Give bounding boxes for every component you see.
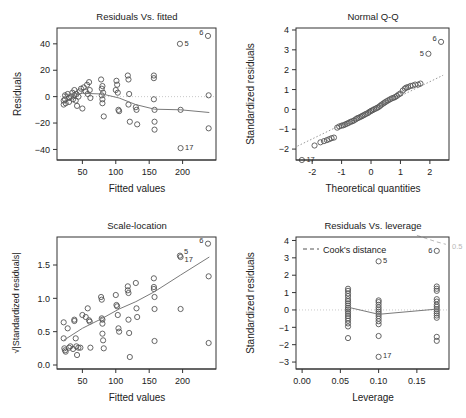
data-point [100,101,105,106]
data-point [74,352,79,357]
data-point [135,314,140,319]
outlier-label-17: 17 [185,255,193,264]
y-tick-label: 2 [284,270,289,280]
data-point [101,346,106,351]
data-point [134,306,139,311]
y-tick-label: 0.5 [37,327,50,337]
data-point [152,338,157,343]
outlier-label-6: 6 [428,246,432,255]
x-tick-label: 200 [175,167,190,177]
data-point [100,331,105,336]
panel-2-title: Normal Q-Q [347,11,398,22]
data-point [126,317,131,322]
outlier-label-17: 17 [306,155,314,164]
y-tick-label: 0.0 [37,360,50,370]
outlier-label-17: 17 [185,143,193,152]
y-tick-label: 4 [284,236,289,246]
y-tick-label: 1 [284,85,289,95]
panel-residuals-vs-leverage: Residuals Vs. leverage 6517 0.000.050.10… [233,209,466,418]
panel-4-xlabel: Leverage [352,392,394,403]
data-point [80,106,85,111]
data-point [206,274,211,279]
panel-2-xlabel: Theoretical quantities [325,183,420,194]
data-point [88,345,93,350]
y-tick-label: −1 [279,323,289,333]
data-point [434,248,439,253]
x-tick-label: 100 [108,167,123,177]
data-point [98,77,103,82]
y-tick-label: 1.5 [37,260,50,270]
x-tick-label: -2 [308,167,316,177]
data-point [438,39,443,44]
data-point [151,276,156,281]
data-point [152,107,157,112]
panel-residuals-vs-fitted: Residuals Vs. fitted 6517 50100150200−40… [0,0,233,209]
data-point [135,122,140,127]
panel-normal-qq: Normal Q-Q 6517 -2-1012−2−101234 Theoret… [233,0,466,209]
cooks-contour-label: 0.5 [452,242,462,251]
x-tick-label: 100 [108,376,123,386]
y-tick-label: 2 [284,65,289,75]
panel-2-canvas: Normal Q-Q 6517 -2-1012−2−101234 Theoret… [233,0,466,209]
x-tick-label: 0 [369,167,374,177]
panel-1-xlabel: Fitted values [109,183,166,194]
outlier-label-6: 6 [199,28,203,37]
x-tick-label: 1 [398,167,403,177]
y-tick-label: 40 [40,39,50,49]
data-point [206,126,211,131]
data-point [61,320,66,325]
data-point [376,259,381,264]
outlier-label-17: 17 [383,351,391,360]
data-point [127,119,132,124]
data-point [65,326,70,331]
data-point [152,119,157,124]
x-tick-label: 150 [142,167,157,177]
lowess-smoother-line [348,307,437,314]
data-point [178,146,183,151]
panel-3-xlabel: Fitted values [109,392,166,403]
panel-1-title: Residuals Vs. fitted [96,11,177,22]
y-tick-label: 1 [284,288,289,298]
y-tick-label: −20 [35,118,50,128]
panel-3-canvas: Scale-location 6517 501001502000.00.51.0… [0,209,233,418]
data-point [101,338,106,343]
y-tick-label: 0 [45,92,50,102]
data-point [376,333,381,338]
data-point [152,294,157,299]
y-tick-label: 4 [284,25,289,35]
data-point [133,280,138,285]
data-point [318,140,323,145]
panel-4-ylabel: Standardized residuals [245,252,256,354]
y-tick-label: −2 [279,144,289,154]
y-tick-label: 0 [284,305,289,315]
data-point [113,292,118,297]
diagnostic-plot-figure: Residuals Vs. fitted 6517 50100150200−40… [0,0,466,418]
data-point [73,336,78,341]
y-tick-label: 3 [284,253,289,263]
cooks-distance-legend-label: Cook's distance [323,245,386,255]
data-point [127,330,132,335]
panel-2-ylabel: Standardized residuals [245,43,256,145]
y-tick-label: 3 [284,45,289,55]
data-point [115,312,120,317]
data-point [376,354,381,359]
y-tick-label: 20 [40,65,50,75]
data-point [205,33,210,38]
lowess-smoother-line [64,257,210,340]
panel-3-title: Scale-location [107,220,167,231]
data-point [152,306,157,311]
x-tick-label: 50 [77,167,87,177]
outlier-label-6: 6 [432,34,436,43]
data-point [312,143,317,148]
data-point [127,354,132,359]
panel-scale-location: Scale-location 6517 501001502000.00.51.0… [0,209,233,418]
x-tick-label: 50 [77,376,87,386]
y-tick-label: −3 [279,357,289,367]
data-point [177,41,182,46]
x-tick-label: 2 [427,167,432,177]
x-tick-label: 0.15 [408,376,426,386]
data-point [345,335,350,340]
x-tick-label: 0.10 [370,376,388,386]
data-point [85,306,90,311]
data-point [74,103,79,108]
